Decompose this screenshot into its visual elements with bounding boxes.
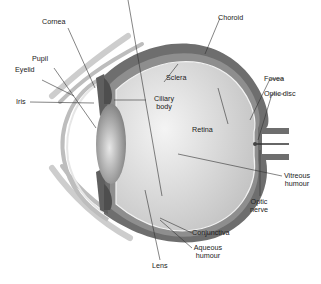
vitreous-humour xyxy=(116,62,255,231)
label-pupil: Pupil xyxy=(32,55,48,63)
label-eyelid: Eyelid xyxy=(15,66,35,74)
label-ciliary-line2: body xyxy=(156,102,172,111)
label-optic-nerve-line2: nerve xyxy=(250,205,268,214)
label-ciliary-body: Ciliarybody xyxy=(150,95,178,111)
label-cornea: Cornea xyxy=(42,18,66,26)
lens xyxy=(96,104,126,184)
label-vitreous-line2: humour xyxy=(285,179,309,188)
label-optic-nerve: Opticnerve xyxy=(244,198,274,214)
eye-diagram: Cornea Choroid Pupil Eyelid Sclera Fovea… xyxy=(0,0,321,284)
label-iris: Iris xyxy=(16,98,26,106)
label-lens: Lens xyxy=(152,262,168,270)
label-fovea: Fovea xyxy=(264,75,284,83)
label-aqueous-line2: humour xyxy=(196,251,220,260)
label-optic-disc: Optic disc xyxy=(264,90,296,98)
eye-illustration xyxy=(0,0,321,284)
label-conjunctiva: Conjunctiva xyxy=(192,229,230,237)
label-aqueous-humour: Aqueoushumour xyxy=(192,244,224,260)
label-choroid: Choroid xyxy=(218,14,243,22)
label-retina: Retina xyxy=(192,126,213,134)
label-sclera: Sclera xyxy=(166,74,186,82)
label-vitreous-humour: Vitreoushumour xyxy=(280,172,314,188)
